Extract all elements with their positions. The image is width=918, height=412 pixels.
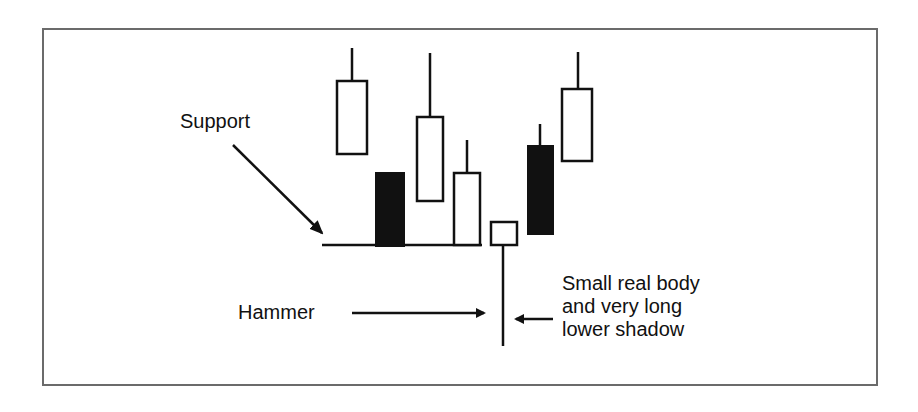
support-arrow [233,145,322,233]
description-line-2: and very long [562,295,700,318]
hammer-label: Hammer [238,301,315,324]
candle-4-hollow [454,140,480,245]
support-label: Support [180,110,250,133]
candle-3-hollow [417,53,443,201]
candle-1-hollow [337,48,367,154]
description-line-3: lower shadow [562,318,700,341]
hammer-candle [491,222,517,346]
candlestick-diagram [0,0,918,412]
candle-6-filled [527,124,554,235]
candle-7-hollow [562,52,592,161]
candle-2-filled [375,172,405,247]
hammer-description: Small real body and very long lower shad… [562,272,700,341]
description-line-1: Small real body [562,272,700,295]
